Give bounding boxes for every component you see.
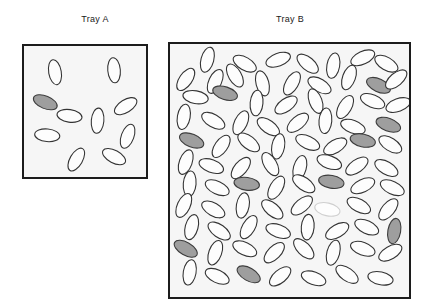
tray-b-ellipse-white [264, 173, 288, 202]
tray-b-ellipse-white [348, 175, 377, 197]
tray-b-ellipse-white [203, 265, 232, 287]
tray-b-ellipse-white [325, 52, 342, 79]
tray-b-label: Tray B [250, 14, 330, 24]
tray-b-ellipse-white [290, 235, 317, 262]
tray-b-ellipse-white [173, 65, 198, 93]
tray-b-ellipse-white [258, 196, 286, 222]
tray-a-ellipse-white [107, 57, 122, 83]
tray-b-ellipse-gray [171, 237, 200, 261]
tray-a-ellipse-white [112, 94, 140, 118]
tray-b-ellipse-white [205, 218, 233, 243]
tray-a-ellipse-white [56, 108, 83, 124]
tray-b-ellipse-white [230, 238, 259, 260]
tray-a-box [22, 44, 148, 179]
tray-b-ellipse-gray [374, 114, 402, 135]
tray-b-ellipse-white [209, 132, 234, 160]
tray-b-ellipse-white [333, 93, 357, 122]
tray-b-box [168, 42, 411, 299]
tray-b-ellipse-white [324, 239, 343, 267]
tray-a-ellipse-white [117, 122, 137, 150]
tray-b-ellipse-white [293, 131, 322, 153]
tray-a-ellipse-white [47, 59, 64, 86]
tray-b-ellipse-white [280, 69, 304, 98]
tray-b-ellipse-white [182, 213, 201, 241]
tray-b-ellipse-white [264, 49, 292, 70]
tray-b-ellipse-white [367, 269, 395, 287]
tray-b-ellipse-white [376, 132, 404, 156]
tray-b-ellipse-white [376, 241, 405, 265]
tray-b-ellipse-gray [318, 173, 345, 190]
tray-b-ellipse-white [264, 221, 292, 242]
tray-a-ellipse-gray [31, 92, 59, 113]
tray-b-ellipse-white [249, 90, 264, 117]
tray-b-ellipse-white [182, 89, 209, 106]
tray-b-ellipse-white [284, 110, 312, 136]
tray-b-ellipse-white [352, 216, 381, 238]
tray-b-ellipse-white [266, 263, 294, 289]
tray-b-ellipse-white [199, 197, 228, 221]
tray-a-label: Tray A [60, 14, 130, 24]
tray-b-ellipse-gray [234, 262, 263, 286]
tray-b-ellipse-gray [177, 130, 205, 151]
tray-b-ellipse-white [197, 156, 225, 177]
tray-a-ellipse-white [34, 128, 60, 143]
tray-a-ellipse-white [90, 108, 105, 134]
tray-b-ellipse-field [170, 44, 409, 297]
tray-b-ellipse-white [205, 238, 226, 266]
tray-b-ellipse-white [384, 95, 409, 116]
tray-b-ellipse-faint [314, 200, 342, 218]
tray-b-ellipse-gray [386, 217, 403, 244]
tray-b-ellipse-white [378, 177, 407, 199]
tray-b-ellipse-white [300, 214, 315, 241]
tray-b-ellipse-white [372, 156, 401, 180]
tray-b-ellipse-gray [349, 132, 377, 150]
tray-b-ellipse-white [234, 192, 251, 219]
tray-b-ellipse-white [323, 219, 352, 243]
tray-a-ellipse-field [24, 46, 146, 177]
tray-b-ellipse-white [261, 239, 288, 266]
tray-b-ellipse-white [343, 153, 371, 178]
tray-b-ellipse-white [349, 238, 377, 259]
tray-b-ellipse-white [181, 259, 198, 286]
tray-b-ellipse-white [199, 109, 228, 133]
figure-canvas: Tray A Tray B [0, 0, 421, 308]
tray-b-ellipse-white [333, 262, 361, 287]
tray-b-ellipse-white [198, 46, 217, 74]
tray-b-ellipse-white [175, 103, 192, 130]
tray-a-ellipse-white [65, 145, 88, 173]
tray-b-ellipse-white [272, 92, 300, 117]
tray-b-ellipse-white [203, 177, 232, 199]
tray-b-ellipse-white [345, 194, 374, 217]
tray-b-ellipse-white [339, 63, 360, 91]
tray-b-ellipse-white [299, 268, 327, 289]
tray-b-ellipse-gray [233, 176, 260, 192]
tray-b-ellipse-white [288, 192, 316, 218]
